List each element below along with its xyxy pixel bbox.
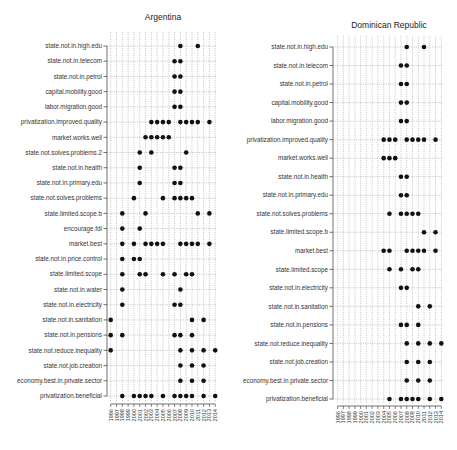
row-label: capital.mobility.good [45, 88, 102, 96]
data-point [120, 226, 125, 231]
row-label: state.not.solves.problems [257, 210, 328, 218]
data-point [201, 394, 206, 399]
row-label: market.best [295, 247, 328, 254]
row-label: state.not.job.creation [44, 362, 103, 370]
data-point [387, 156, 392, 161]
data-point [155, 242, 160, 247]
data-point [404, 360, 409, 365]
data-point [213, 394, 218, 399]
data-point [137, 150, 142, 155]
dot-plot-canvas: 1996199719981999200020012002200320042005… [0, 0, 457, 450]
data-point [422, 248, 427, 253]
plot-argentina: 1996199719981999200020012002200320042005… [17, 32, 218, 421]
data-point [410, 397, 415, 402]
data-point [427, 341, 432, 346]
data-point [410, 211, 415, 216]
data-point [439, 341, 444, 346]
data-point [149, 120, 154, 125]
data-point [416, 137, 421, 142]
data-point [416, 397, 421, 402]
data-point [427, 304, 432, 309]
data-point [178, 74, 183, 79]
data-point [404, 378, 409, 383]
data-point [190, 196, 195, 201]
row-label: state.not.job.creation [270, 358, 329, 366]
data-point [387, 267, 392, 272]
row-label: capital.mobility.good [271, 99, 328, 107]
row-label: state.not.in.telecom [273, 62, 328, 69]
row-label: state.not.in.primary.edu [37, 179, 103, 187]
data-point [190, 120, 195, 125]
data-point [166, 120, 171, 125]
row-label: privatization.beneficial [266, 395, 328, 403]
data-point [132, 196, 137, 201]
data-point [178, 59, 183, 64]
data-point [190, 242, 195, 247]
data-point [207, 120, 212, 125]
data-point [195, 44, 200, 49]
data-point [184, 242, 189, 247]
data-point [433, 248, 438, 253]
data-point [178, 287, 183, 292]
data-point [172, 196, 177, 201]
data-point [381, 137, 386, 142]
data-point [190, 394, 195, 399]
x-tick-label: 2014 [438, 411, 444, 423]
data-point [404, 63, 409, 68]
data-point [172, 105, 177, 110]
row-label: state.limited.scope [276, 266, 329, 274]
data-point [433, 137, 438, 142]
data-point [120, 287, 125, 292]
data-point [178, 196, 183, 201]
row-label: labor.migration.good [271, 117, 329, 125]
data-point [184, 150, 189, 155]
data-point [399, 267, 404, 272]
row-label: state.not.in.pensions [270, 321, 328, 329]
data-point [404, 248, 409, 253]
row-label: privatization.beneficial [40, 392, 102, 400]
data-point [178, 333, 183, 338]
data-point [201, 378, 206, 383]
row-label: state.not.in.pensions [44, 331, 102, 339]
data-point [422, 137, 427, 142]
data-point [381, 248, 386, 253]
row-label: market.works.well [52, 134, 102, 141]
data-point [161, 272, 166, 277]
data-point [166, 135, 171, 140]
data-point [201, 318, 206, 323]
data-point [161, 120, 166, 125]
data-point [132, 257, 137, 262]
data-point [178, 242, 183, 247]
data-point [120, 272, 125, 277]
data-point [149, 135, 154, 140]
data-point [155, 135, 160, 140]
data-point [195, 120, 200, 125]
row-label: state.not.in.electricity [269, 284, 329, 292]
row-label: state.not.in.petrol [54, 73, 102, 81]
data-point [399, 286, 404, 291]
data-point [184, 196, 189, 201]
data-point [399, 100, 404, 105]
data-point [172, 89, 177, 94]
data-point [108, 333, 113, 338]
data-point [195, 242, 200, 247]
data-point [172, 272, 177, 277]
data-point [178, 378, 183, 383]
data-point [404, 341, 409, 346]
data-point [120, 242, 125, 247]
row-label: state.not.in.health [278, 173, 328, 180]
data-point [172, 74, 177, 79]
data-point [201, 363, 206, 368]
data-point [178, 44, 183, 49]
data-point [190, 363, 195, 368]
data-point [422, 45, 427, 50]
data-point [178, 302, 183, 307]
data-point [404, 174, 409, 179]
data-point [120, 333, 125, 338]
data-point [178, 363, 183, 368]
row-label: state.not.reduce.inequality [28, 347, 102, 355]
data-point [178, 348, 183, 353]
data-point [120, 257, 125, 262]
data-point [416, 248, 421, 253]
data-point [427, 397, 432, 402]
